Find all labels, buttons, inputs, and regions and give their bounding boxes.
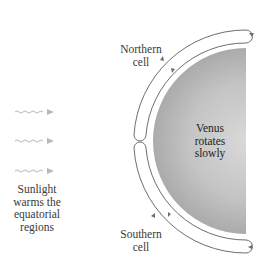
- sunlight-label: Sunlight warms the equatorial regions: [0, 183, 74, 233]
- arrowhead-icon: [47, 168, 54, 174]
- northern-cell-label: Northern cell: [113, 43, 169, 68]
- sunlight-arrow-1: [15, 111, 43, 113]
- sunlight-arrow-3: [15, 170, 43, 172]
- southern-cell-label: Southern cell: [113, 228, 169, 253]
- sunlight-arrow-2: [15, 140, 43, 142]
- arrowhead-icon: [47, 109, 54, 115]
- sunlight-arrows: [15, 109, 54, 174]
- planet-label: Venus rotates slowly: [180, 122, 240, 160]
- arrowhead-icon: [47, 138, 54, 144]
